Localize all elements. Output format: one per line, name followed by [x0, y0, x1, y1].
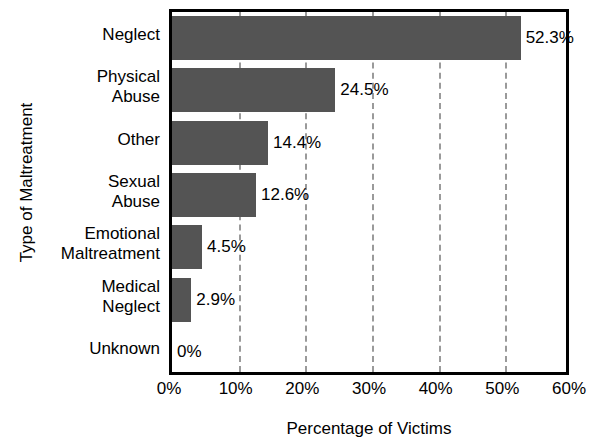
bar-value-label: 52.3%: [526, 28, 574, 47]
category-label: PhysicalAbuse: [0, 67, 160, 107]
category-label-line: Unknown: [0, 339, 160, 359]
x-axis-tick-labels: 0%10%20%30%40%50%60%: [169, 379, 569, 403]
bar-value-label: 0%: [177, 342, 202, 361]
category-label-line: Maltreatment: [0, 244, 160, 264]
category-label: Unknown: [0, 339, 160, 359]
category-label-line: Other: [0, 130, 160, 150]
category-label-line: Neglect: [0, 297, 160, 317]
category-label: Other: [0, 130, 160, 150]
bar-chart: Type of Maltreatment NeglectPhysicalAbus…: [0, 0, 593, 441]
category-label-line: Abuse: [0, 87, 160, 107]
x-tick-label: 60%: [534, 379, 593, 399]
bar-value-label: 24.5%: [340, 80, 388, 99]
category-label: EmotionalMaltreatment: [0, 224, 160, 264]
x-axis-title: Percentage of Victims: [169, 419, 569, 438]
category-label-line: Physical: [0, 67, 160, 87]
bar: [172, 278, 191, 322]
x-tick-label: 10%: [201, 379, 271, 399]
bar: [172, 121, 268, 165]
gridline-40: [439, 12, 441, 372]
category-label-line: Medical: [0, 277, 160, 297]
bar-value-label: 12.6%: [261, 185, 309, 204]
category-label-line: Neglect: [0, 25, 160, 45]
bar: [172, 173, 256, 217]
bar: [172, 68, 335, 112]
x-tick-label: 20%: [267, 379, 337, 399]
category-label-line: Abuse: [0, 192, 160, 212]
category-label-line: Sexual: [0, 172, 160, 192]
y-axis-tick-labels: NeglectPhysicalAbuseOtherSexualAbuseEmot…: [0, 9, 160, 375]
category-label: MedicalNeglect: [0, 277, 160, 317]
bar-value-label: 14.4%: [273, 133, 321, 152]
x-tick-label: 40%: [401, 379, 471, 399]
x-tick-label: 50%: [467, 379, 537, 399]
gridline-50: [505, 12, 507, 372]
category-label: Neglect: [0, 25, 160, 45]
category-label: SexualAbuse: [0, 172, 160, 212]
plot-area: 52.3%24.5%14.4%12.6%4.5%2.9%0%: [169, 9, 569, 375]
category-label-line: Emotional: [0, 224, 160, 244]
bar: [172, 16, 521, 60]
x-tick-label: 30%: [334, 379, 404, 399]
bar: [172, 225, 202, 269]
bar-value-label: 4.5%: [207, 237, 246, 256]
bar-value-label: 2.9%: [196, 290, 235, 309]
gridline-30: [372, 12, 374, 372]
x-tick-label: 0%: [134, 379, 204, 399]
